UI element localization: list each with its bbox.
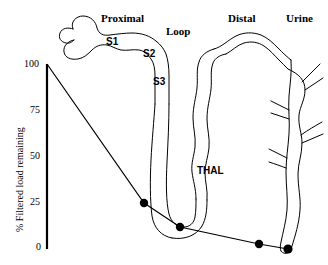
filtered-load-series — [47, 64, 293, 254]
thal-ascending-left-wall — [192, 49, 214, 199]
data-point-urine — [283, 244, 292, 253]
nephron-filtered-load-figure: % Filtered load remaining 100 75 50 25 0… — [0, 0, 328, 265]
y-tick-75: 75 — [30, 104, 40, 115]
loop-bend-outer — [172, 200, 207, 239]
proximal-tubule-upper-outline — [72, 16, 169, 104]
y-tick-25: 25 — [30, 196, 40, 207]
collecting-duct-branch-upper-left-a — [271, 101, 289, 110]
figure-canvas — [0, 0, 328, 265]
y-axis-title: % Filtered load remaining — [14, 127, 25, 232]
segment-label-s1: S1 — [106, 36, 118, 47]
collecting-duct-branch-upper-left-b — [271, 113, 289, 119]
distal-tubule-top-outer — [214, 33, 291, 60]
distal-tubule-top-inner — [226, 42, 288, 69]
data-point-loop — [176, 223, 184, 231]
segment-label-s3: S3 — [153, 76, 165, 87]
y-tick-0: 0 — [36, 241, 41, 252]
thal-ascending-right-wall — [205, 54, 226, 200]
region-label-proximal: Proximal — [101, 12, 144, 24]
y-tick-100: 100 — [24, 58, 39, 69]
data-point-distal — [255, 240, 263, 248]
loop-bend-inner — [184, 199, 196, 227]
segment-label-thal: THAL — [197, 165, 224, 176]
collecting-duct-branch-upper-right-a — [302, 64, 320, 82]
collecting-duct-branch-upper-right-b — [305, 78, 323, 90]
proximal-tubule-lower-outline — [64, 40, 155, 104]
loop-descending-right-wall — [166, 104, 184, 227]
segment-label-s2: S2 — [143, 48, 155, 59]
collecting-duct-branch-lower-left-a — [269, 149, 287, 158]
y-tick-50: 50 — [30, 150, 40, 161]
collecting-duct-branch-mid-right-a — [301, 122, 322, 135]
data-point-end-proximal — [140, 199, 148, 207]
region-label-urine: Urine — [286, 12, 313, 24]
region-label-loop: Loop — [166, 25, 190, 37]
collecting-duct-branch-mid-right-b — [302, 134, 323, 143]
collecting-duct-right-wall — [288, 69, 305, 252]
collecting-duct-branch-lower-left-b — [269, 162, 286, 168]
region-label-distal: Distal — [228, 12, 256, 24]
nephron-schematic — [59, 16, 323, 253]
